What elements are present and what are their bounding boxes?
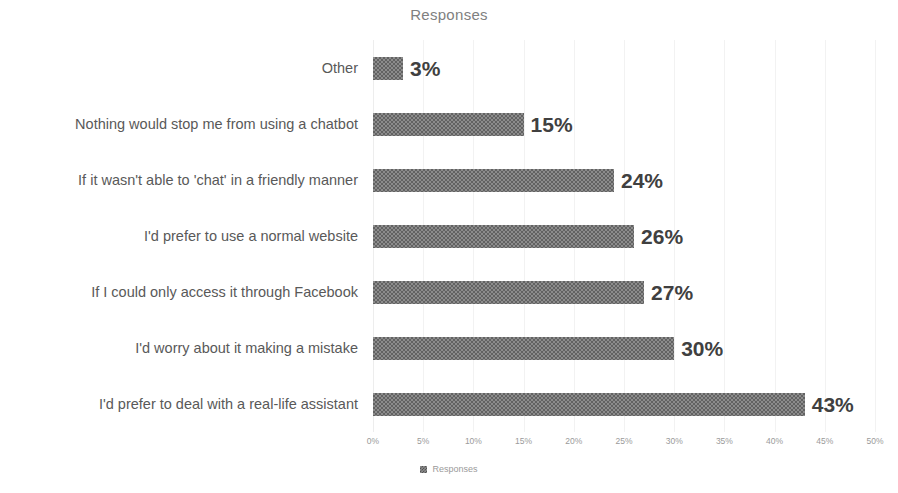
bar-value-label: 43%: [812, 394, 854, 415]
bar[interactable]: [373, 113, 524, 136]
bar-row[interactable]: 30%: [373, 320, 875, 376]
x-tick-label: 30%: [666, 436, 683, 446]
category-label: If I could only access it through Facebo…: [0, 264, 366, 320]
chart-title: Responses: [0, 6, 898, 23]
bar[interactable]: [373, 393, 805, 416]
category-label: I'd worry about it making a mistake: [0, 320, 366, 376]
x-tick-label: 35%: [716, 436, 733, 446]
bar-value-label: 3%: [410, 58, 440, 79]
bar[interactable]: [373, 225, 634, 248]
x-tick-label: 25%: [615, 436, 632, 446]
category-label: Nothing would stop me from using a chatb…: [0, 96, 366, 152]
bar[interactable]: [373, 169, 614, 192]
bar-chart: Responses 3%15%24%26%27%30%43% OtherNoth…: [0, 0, 898, 493]
x-tick-label: 20%: [565, 436, 582, 446]
legend-label: Responses: [432, 464, 477, 474]
x-tick-label: 5%: [417, 436, 429, 446]
category-label: If it wasn't able to 'chat' in a friendl…: [0, 152, 366, 208]
category-label: I'd prefer to deal with a real-life assi…: [0, 376, 366, 432]
bars-layer: 3%15%24%26%27%30%43%: [373, 40, 875, 432]
bar[interactable]: [373, 57, 403, 80]
x-tick-label: 50%: [866, 436, 883, 446]
bar-row[interactable]: 24%: [373, 152, 875, 208]
bar-value-label: 27%: [651, 282, 693, 303]
bar[interactable]: [373, 337, 674, 360]
legend-swatch-icon: [420, 466, 427, 473]
x-tick-label: 15%: [515, 436, 532, 446]
chart-legend: Responses: [0, 464, 898, 474]
bar-row[interactable]: 26%: [373, 208, 875, 264]
bar-row[interactable]: 3%: [373, 40, 875, 96]
bar-row[interactable]: 43%: [373, 376, 875, 432]
x-tick-label: 45%: [816, 436, 833, 446]
gridline: [875, 40, 876, 432]
category-label: I'd prefer to use a normal website: [0, 208, 366, 264]
bar-value-label: 26%: [641, 226, 683, 247]
category-axis-labels: OtherNothing would stop me from using a …: [0, 40, 366, 432]
bar[interactable]: [373, 281, 644, 304]
x-tick-label: 40%: [766, 436, 783, 446]
plot-area: 3%15%24%26%27%30%43%: [373, 40, 875, 432]
bar-value-label: 15%: [531, 114, 573, 135]
bar-row[interactable]: 27%: [373, 264, 875, 320]
x-tick-label: 10%: [465, 436, 482, 446]
x-axis-tick-labels: 0%5%10%15%20%25%30%35%40%45%50%: [373, 436, 875, 452]
bar-value-label: 30%: [681, 338, 723, 359]
category-label: Other: [0, 40, 366, 96]
bar-value-label: 24%: [621, 170, 663, 191]
x-tick-label: 0%: [367, 436, 379, 446]
bar-row[interactable]: 15%: [373, 96, 875, 152]
